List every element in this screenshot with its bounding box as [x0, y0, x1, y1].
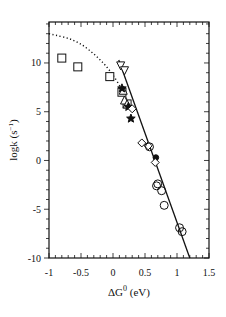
plot-frame: [49, 22, 209, 258]
star-marker: [127, 114, 136, 122]
triangle-down-marker: [121, 67, 129, 75]
x-tick-label: 1: [175, 267, 180, 278]
chart: -1-0.500.511.5 -10-50510 ΔG0 (eV) logk (…: [0, 0, 226, 317]
square-marker: [58, 54, 66, 62]
square-marker: [74, 63, 82, 71]
y-axis-title: logk (s−1): [7, 119, 20, 161]
y-tick-label: 10: [31, 57, 41, 68]
y-tick-label: 0: [36, 155, 41, 166]
x-tick-label: -0.5: [73, 267, 89, 278]
circle-marker: [160, 201, 168, 209]
y-axis-ticks: [44, 24, 209, 258]
circle-marker: [158, 187, 166, 195]
y-tick-label: -5: [33, 204, 41, 215]
x-axis-tick-labels: -1-0.500.511.5: [45, 267, 215, 278]
y-tick-label: 5: [36, 106, 41, 117]
x-tick-label: 0: [111, 267, 116, 278]
x-tick-label: 1.5: [203, 267, 216, 278]
x-tick-label: 0.5: [139, 267, 152, 278]
square-marker: [106, 73, 114, 81]
data-points: [58, 54, 186, 236]
x-tick-label: -1: [45, 267, 53, 278]
y-tick-label: -10: [28, 253, 41, 264]
y-axis-tick-labels: -10-50510: [28, 57, 41, 263]
x-axis-ticks: [49, 22, 209, 258]
x-axis-title: ΔG0 (eV): [108, 284, 150, 299]
marcus-curve: [49, 34, 132, 110]
